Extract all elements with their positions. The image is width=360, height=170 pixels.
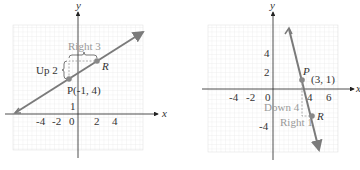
right-point-r: [309, 113, 315, 119]
left-point-r: [94, 58, 100, 64]
right-run-label: Right 1: [280, 116, 313, 128]
right-y-tick: 2: [264, 66, 270, 78]
left-x-tick: 4: [112, 115, 118, 127]
left-point-p: [66, 76, 72, 82]
right-y-tick: -4: [259, 120, 269, 132]
right-point-p-label: P: [302, 65, 310, 77]
right-y-axis-label: y: [269, 0, 275, 11]
right-point-p: [299, 77, 305, 83]
slope-diagrams: x y -4 -2 0 2 4 1 Right 3 Up 2 P(-1, 4) …: [0, 0, 360, 170]
left-x-tick: -2: [52, 115, 61, 127]
right-graph: x y -4 -2 0 4 6 4 2 -4 Down 4 Right 1 P …: [202, 0, 360, 160]
right-x-tick: -2: [246, 91, 255, 103]
right-x-tick: -4: [229, 91, 239, 103]
left-x-tick: -4: [36, 115, 46, 127]
right-x-tick: 6: [326, 91, 332, 103]
left-graph: x y -4 -2 0 2 4 1 Right 3 Up 2 P(-1, 4) …: [5, 0, 167, 158]
right-rise-label: Down 4: [264, 101, 300, 113]
left-rise-label: Up 2: [36, 64, 58, 76]
left-x-axis-label: x: [161, 107, 167, 119]
left-point-r-label: R: [101, 60, 109, 72]
right-x-axis-label: x: [355, 82, 360, 94]
left-x-tick: 2: [94, 115, 100, 127]
right-y-tick: 4: [264, 47, 270, 59]
left-y-axis-label: y: [75, 0, 81, 11]
left-run-label: Right 3: [68, 40, 101, 52]
left-y-tick: 1: [70, 100, 76, 112]
right-point-r-label: R: [316, 110, 324, 122]
right-point-p-coords: (3, 1): [311, 73, 335, 86]
left-point-p-label: P(-1, 4): [67, 84, 101, 97]
left-x-tick: 0: [69, 115, 75, 127]
